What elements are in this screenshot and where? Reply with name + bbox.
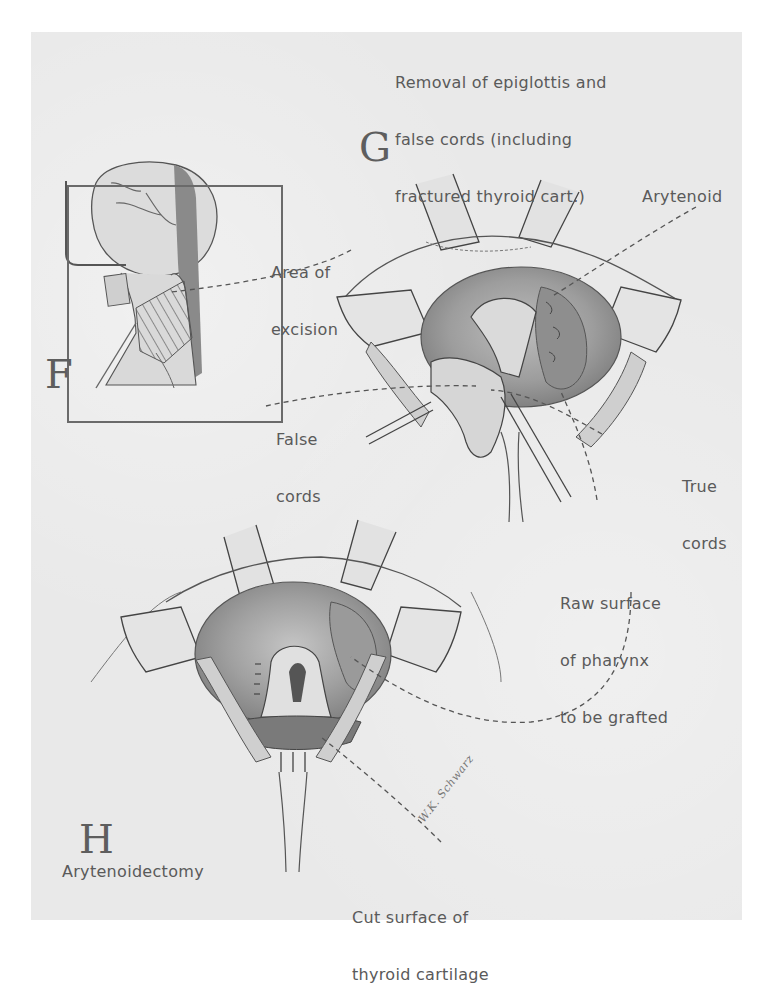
- label-line: False: [276, 430, 321, 449]
- caption-line: Removal of epiglottis and: [395, 73, 607, 92]
- label-line: Raw surface: [560, 594, 668, 613]
- label-false-cords: False cords: [276, 392, 321, 544]
- label-raw-surface: Raw surface of pharynx to be grafted: [560, 556, 668, 765]
- illustration-plate: F G H Removal of epiglottis and false co…: [31, 32, 742, 920]
- label-line: thyroid cartilage: [352, 965, 489, 984]
- panel-h-caption: Arytenoidectomy: [62, 862, 204, 881]
- label-line: excision: [271, 320, 338, 339]
- label-true-cords: True cords: [682, 439, 727, 591]
- panel-h-drawing: [91, 520, 501, 872]
- label-line: of pharynx: [560, 651, 668, 670]
- label-line: True: [682, 477, 727, 496]
- label-line: cords: [276, 487, 321, 506]
- label-line: cords: [682, 534, 727, 553]
- label-area-of-excision: Area of excision: [271, 225, 338, 377]
- label-line: to be grafted: [560, 708, 668, 727]
- label-line: Cut surface of: [352, 908, 489, 927]
- panel-letter-f: F: [45, 354, 73, 394]
- panel-g-caption: Removal of epiglottis and false cords (i…: [395, 35, 607, 244]
- label-cut-surface: Cut surface of thyroid cartilage: [352, 870, 489, 987]
- caption-line: fractured thyroid cart.): [395, 187, 607, 206]
- label-arytenoid: Arytenoid: [642, 187, 722, 206]
- label-line: Area of: [271, 263, 338, 282]
- panel-f-inset-frame: [67, 185, 283, 423]
- caption-line: false cords (including: [395, 130, 607, 149]
- panel-letter-g: G: [359, 127, 391, 167]
- panel-letter-h: H: [79, 819, 114, 859]
